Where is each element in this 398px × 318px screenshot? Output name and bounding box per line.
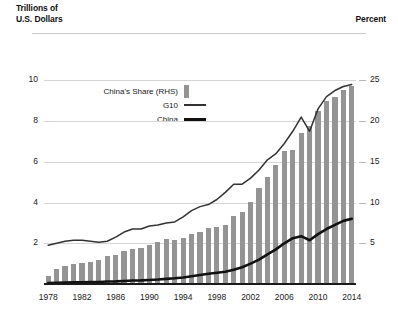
header-divider xyxy=(32,33,366,34)
x-tick-label: 2002 xyxy=(236,292,266,302)
x-tick-label: 2006 xyxy=(269,292,299,302)
left-axis-title: Trillions of U.S. Dollars xyxy=(16,3,63,25)
x-tick-label: 1978 xyxy=(33,292,63,302)
x-tick-label: 1982 xyxy=(67,292,97,302)
x-tick-label: 1990 xyxy=(134,292,164,302)
line-series-china xyxy=(48,219,352,283)
left-tick-label: 6 xyxy=(10,157,38,166)
line-series-g10 xyxy=(48,84,352,245)
x-axis-baseline xyxy=(44,283,356,285)
right-axis-title: Percent xyxy=(356,14,386,25)
right-tick-label: 5 xyxy=(370,238,398,247)
x-tick-label: 1994 xyxy=(168,292,198,302)
right-tick-label: 10 xyxy=(370,198,398,207)
x-tick-label: 1986 xyxy=(101,292,131,302)
x-tick-label: 1998 xyxy=(202,292,232,302)
right-tick-mark xyxy=(359,162,366,163)
right-tick-mark xyxy=(359,80,366,81)
x-tick-label: 2010 xyxy=(303,292,333,302)
x-tick-label: 2014 xyxy=(337,292,367,302)
chart-figure: Trillions of U.S. Dollars Percent China'… xyxy=(0,0,398,318)
right-tick-label: 25 xyxy=(370,75,398,84)
left-tick-label: 10 xyxy=(10,75,38,84)
plot-area xyxy=(44,60,356,284)
right-tick-label: 15 xyxy=(370,157,398,166)
line-series-layer xyxy=(44,60,356,284)
left-tick-label: 2 xyxy=(10,238,38,247)
right-tick-mark xyxy=(359,203,366,204)
left-tick-label: 8 xyxy=(10,116,38,125)
right-tick-label: 20 xyxy=(370,116,398,125)
right-tick-mark xyxy=(359,243,366,244)
right-tick-mark xyxy=(359,121,366,122)
left-tick-label: 4 xyxy=(10,198,38,207)
